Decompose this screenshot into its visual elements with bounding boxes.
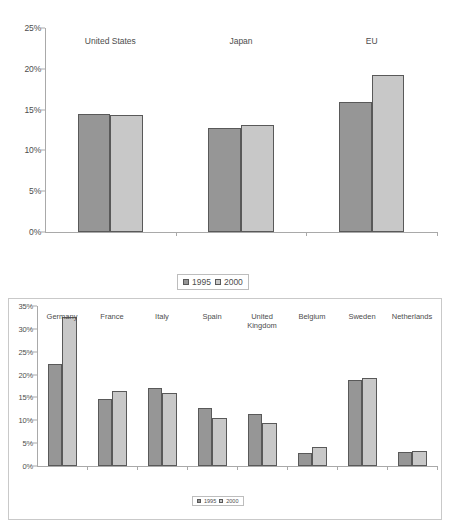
y-axis-tick-mark	[33, 443, 37, 444]
y-axis-tick-mark	[41, 232, 45, 233]
y-axis-tick-mark	[33, 374, 37, 375]
bar-1995	[348, 380, 363, 466]
legend-top: 19952000	[177, 274, 249, 290]
bar-1995	[198, 408, 213, 466]
category-label: Netherlands	[392, 313, 432, 322]
y-axis-tick-mark	[33, 306, 37, 307]
x-axis-tick-mark	[337, 466, 338, 470]
plot-area-top: 0%5%10%15%20%25% United StatesJapanEU	[45, 28, 437, 232]
x-axis-tick-mark	[137, 466, 138, 470]
bar-1995	[208, 128, 241, 232]
legend-swatch-1995	[183, 279, 189, 285]
category-label: Belgium	[298, 313, 325, 322]
bar-2000	[162, 393, 177, 466]
bar-2000	[312, 447, 327, 466]
legend-bottom: 19952000	[192, 496, 244, 506]
bar-1995	[48, 364, 63, 466]
bar-1995	[248, 414, 263, 466]
legend-item-1995: 1995	[197, 498, 216, 504]
bar-2000	[241, 125, 274, 232]
legend-swatch-2000	[215, 279, 221, 285]
x-axis-tick-mark	[87, 466, 88, 470]
x-axis-tick-mark	[287, 466, 288, 470]
y-axis-tick-mark	[33, 328, 37, 329]
y-axis-tick-mark	[41, 191, 45, 192]
bar-2000	[362, 378, 377, 466]
legend-item-2000: 2000	[215, 277, 243, 287]
y-axis-line-top	[45, 28, 46, 232]
x-axis-tick-mark	[306, 232, 307, 236]
legend-swatch-1995	[197, 499, 201, 503]
bar-1995	[148, 388, 163, 466]
x-axis-tick-mark	[176, 232, 177, 236]
bar-1995	[339, 102, 372, 232]
bar-1995	[398, 452, 413, 466]
y-axis-tick-mark	[41, 109, 45, 110]
x-axis-tick-mark	[237, 466, 238, 470]
y-axis-tick-mark	[33, 420, 37, 421]
legend-item-1995: 1995	[183, 277, 211, 287]
category-label: Sweden	[348, 313, 375, 322]
bar-2000	[412, 451, 427, 466]
legend-item-2000: 2000	[219, 498, 238, 504]
y-axis-tick-mark	[33, 351, 37, 352]
y-axis-tick-mark	[41, 150, 45, 151]
category-label: Italy	[155, 313, 169, 322]
category-label: United Kingdom	[247, 313, 277, 330]
bar-2000	[262, 423, 277, 466]
category-label: France	[100, 313, 123, 322]
y-axis-tick-mark	[33, 397, 37, 398]
category-label: EU	[366, 37, 378, 47]
legend-label: 2000	[226, 498, 238, 504]
x-axis-tick-mark	[387, 466, 388, 470]
bar-1995	[98, 399, 113, 466]
category-label: Japan	[229, 37, 252, 47]
legend-label: 2000	[224, 277, 243, 287]
chart-top-regions: 0%5%10%15%20%25% United StatesJapanEU 19…	[0, 0, 450, 262]
bar-1995	[298, 453, 313, 466]
legend-label: 1995	[192, 277, 211, 287]
y-axis-tick-mark	[33, 466, 37, 467]
bar-2000	[112, 391, 127, 466]
legend-label: 1995	[204, 498, 216, 504]
category-label: United States	[85, 37, 136, 47]
plot-area-bottom: 0%5%10%15%20%25%30%35% GermanyFranceItal…	[37, 306, 437, 466]
category-label: Germany	[47, 313, 78, 322]
bar-1995	[78, 114, 111, 232]
y-axis-tick-mark	[41, 28, 45, 29]
x-axis-tick-mark	[187, 466, 188, 470]
y-axis-line-bottom	[37, 306, 38, 466]
bar-2000	[62, 317, 77, 466]
x-axis-line-top	[45, 232, 437, 233]
y-axis-tick-mark	[41, 68, 45, 69]
bar-2000	[110, 115, 143, 232]
bar-2000	[212, 418, 227, 466]
category-label: Spain	[202, 313, 221, 322]
x-axis-tick-mark	[437, 466, 438, 470]
bar-2000	[372, 75, 405, 232]
legend-swatch-2000	[219, 499, 223, 503]
chart-bottom-countries: 0%5%10%15%20%25%30%35% GermanyFranceItal…	[0, 296, 450, 524]
x-axis-tick-mark	[437, 232, 438, 236]
